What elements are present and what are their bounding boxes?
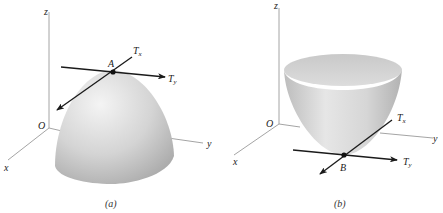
x-label-b: x xyxy=(232,156,238,167)
bowl-rim xyxy=(284,54,402,86)
x-axis-a xyxy=(8,128,49,160)
ty-label-a: Ty xyxy=(168,73,178,86)
panel-b: z O x y B Tx Ty (b) xyxy=(232,0,438,210)
y-axis-b-far xyxy=(380,133,433,138)
y-label-b: y xyxy=(432,133,438,144)
origin-label-a: O xyxy=(38,120,45,131)
point-a-dot xyxy=(110,69,115,74)
y-label-a: y xyxy=(206,138,212,149)
caption-b: (b) xyxy=(334,198,346,210)
y-axis-a-far xyxy=(168,138,203,143)
ty-label-b: Ty xyxy=(403,156,413,169)
z-label-a: z xyxy=(43,6,48,17)
dome-surface xyxy=(55,70,174,184)
z-label-b: z xyxy=(273,0,278,11)
tx-label-b: Tx xyxy=(397,112,407,125)
point-b-dot xyxy=(341,152,346,157)
tx-label-a: Tx xyxy=(133,45,143,58)
panel-a: z O x y A Tx Ty (a) xyxy=(3,6,212,210)
point-b-label: B xyxy=(340,162,346,173)
origin-label-b: O xyxy=(266,118,273,129)
point-a-label: A xyxy=(107,58,115,69)
caption-a: (a) xyxy=(105,198,117,210)
figure-canvas: z O x y A Tx Ty (a) z O x y B Tx Ty (b) xyxy=(0,0,443,213)
y-axis-b-near xyxy=(279,124,300,127)
x-label-a: x xyxy=(3,162,9,173)
figure: z O x y A Tx Ty (a) z O x y B Tx Ty (b) xyxy=(0,0,443,213)
